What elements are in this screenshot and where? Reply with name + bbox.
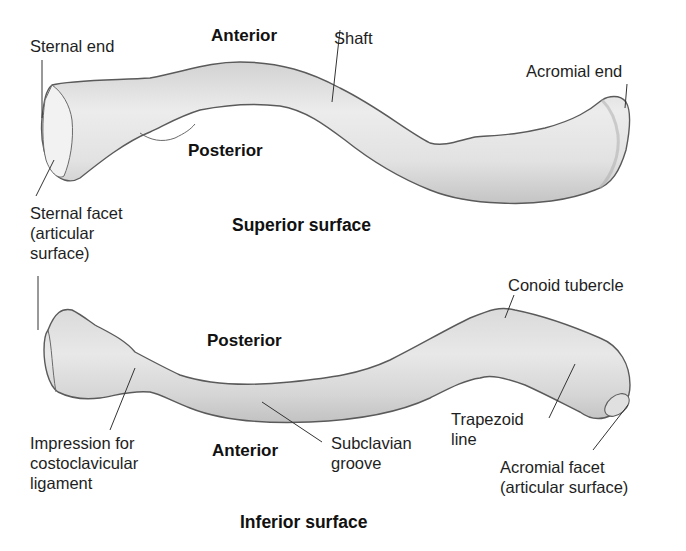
- label-impression-costoclavicular: Impression for costoclavicular ligament: [30, 433, 138, 493]
- label-subclavian-groove: Subclavian groove: [331, 433, 412, 473]
- label-trapezoid-line: Trapezoid line: [451, 409, 524, 449]
- label-posterior-inferior: Posterior: [207, 331, 282, 351]
- clavicle-inferior-view: [44, 308, 634, 422]
- clavicle-diagram: Sternal end Anterior Shaft Acromial end …: [0, 0, 686, 551]
- label-posterior-superior: Posterior: [188, 141, 263, 161]
- label-conoid-tubercle: Conoid tubercle: [508, 275, 624, 295]
- title-superior-surface: Superior surface: [232, 215, 371, 235]
- clavicle-superior-view: [42, 62, 630, 203]
- label-anterior-inferior: Anterior: [212, 441, 278, 461]
- label-sternal-end: Sternal end: [30, 36, 114, 56]
- label-shaft: Shaft: [334, 28, 373, 48]
- label-acromial-facet: Acromial facet (articular surface): [500, 457, 628, 497]
- label-anterior-superior: Anterior: [211, 26, 277, 46]
- title-inferior-surface: Inferior surface: [240, 512, 367, 532]
- label-sternal-facet: Sternal facet (articular surface): [30, 203, 123, 263]
- label-acromial-end: Acromial end: [526, 61, 622, 81]
